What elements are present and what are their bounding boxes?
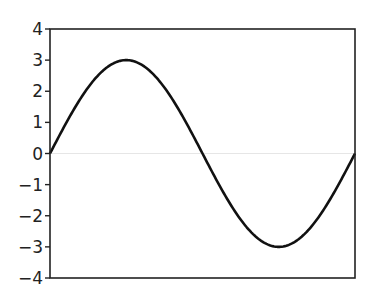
y-tick-label: −1 <box>18 175 43 195</box>
y-tick-label: −2 <box>18 206 43 226</box>
y-tick-label: 2 <box>32 81 43 101</box>
y-axis: 43210−1−2−3−4 <box>18 19 50 288</box>
y-tick-label: 0 <box>32 144 43 164</box>
y-tick-label: −3 <box>18 237 43 257</box>
y-tick-label: 4 <box>32 19 43 39</box>
y-tick-label: −4 <box>18 268 43 288</box>
y-tick-label: 3 <box>32 50 43 70</box>
sine-chart: 43210−1−2−3−4 <box>0 0 382 299</box>
y-tick-label: 1 <box>32 112 43 132</box>
